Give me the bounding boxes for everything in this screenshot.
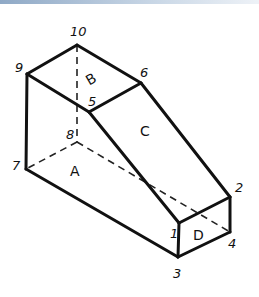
vertex-label-9: 9 (15, 60, 23, 75)
isometric-block-diagram: 12345678910 ABCD (0, 0, 259, 297)
edge-9-10 (27, 45, 77, 74)
face-label-C: C (140, 123, 150, 139)
hidden-edges (26, 45, 230, 232)
face-label-A: A (70, 163, 80, 179)
visible-edges (26, 45, 230, 257)
edge-5-9 (27, 74, 89, 112)
vertex-label-6: 6 (140, 65, 148, 80)
edge-7-3 (26, 169, 178, 257)
edge-5-1 (89, 112, 179, 223)
edge-6-5 (89, 83, 141, 112)
vertex-label-7: 7 (12, 158, 21, 173)
face-label-B: B (83, 70, 99, 89)
vertex-label-4: 4 (228, 236, 236, 251)
edge-9-7 (26, 74, 27, 169)
vertex-label-3: 3 (173, 266, 181, 281)
hidden-edge-8-4 (77, 142, 230, 232)
vertex-label-8: 8 (66, 127, 74, 142)
vertex-label-5: 5 (88, 94, 96, 109)
edge-3-4 (178, 232, 230, 257)
vertex-label-2: 2 (235, 180, 243, 195)
face-label-D: D (193, 227, 204, 243)
edge-1-2 (179, 197, 230, 223)
edge-6-2 (141, 83, 230, 197)
vertex-label-1: 1 (170, 226, 178, 241)
vertex-label-10: 10 (70, 24, 87, 39)
